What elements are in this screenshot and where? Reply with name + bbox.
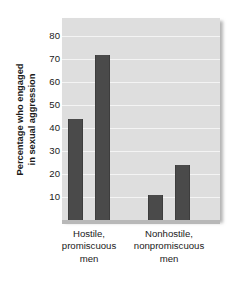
x-axis-category-label-line: Nonhostile, <box>126 228 212 240</box>
x-axis-category-label-line: promiscuous <box>46 240 132 252</box>
y-axis-title-line-1: Percentage who engaged <box>15 63 26 175</box>
y-axis-tick-label: 30 <box>42 146 60 156</box>
y-axis-tick-label: 70 <box>42 54 60 64</box>
x-axis-category-label-line: nonpromiscuous <box>126 240 212 252</box>
x-axis-category-label-line: men <box>46 253 132 265</box>
gridline <box>62 82 220 83</box>
gridline <box>62 128 220 129</box>
gridline <box>62 59 220 60</box>
y-axis-tick-label: 60 <box>42 77 60 87</box>
gridline <box>62 105 220 106</box>
x-axis-category-label: Nonhostile,nonpromiscuousmen <box>126 228 212 265</box>
x-axis-category-label-line: Hostile, <box>46 228 132 240</box>
y-axis-tick-label: 80 <box>42 31 60 41</box>
y-axis-tick-label: 40 <box>42 123 60 133</box>
bar-chart-figure: Percentage who engaged in sexual aggress… <box>0 0 239 295</box>
bar <box>175 165 190 220</box>
gridline <box>62 197 220 198</box>
plot-area <box>62 18 220 220</box>
bar <box>148 195 163 220</box>
y-axis-tick-label: 50 <box>42 100 60 110</box>
bar <box>95 55 110 220</box>
gridline <box>62 36 220 37</box>
y-axis-tick-label: 10 <box>42 192 60 202</box>
x-axis-category-labels: Hostile,promiscuousmenNonhostile,nonprom… <box>62 228 224 286</box>
bar <box>68 119 83 220</box>
y-axis-title-line-2: in sexual aggression <box>26 63 38 175</box>
y-axis-tick-label: 20 <box>42 169 60 179</box>
gridline <box>62 151 220 152</box>
x-axis-category-label: Hostile,promiscuousmen <box>46 228 132 265</box>
x-axis-category-label-line: men <box>126 253 212 265</box>
gridline <box>62 174 220 175</box>
